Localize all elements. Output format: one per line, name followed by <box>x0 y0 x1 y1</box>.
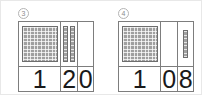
empty-ones-area <box>78 22 93 66</box>
hundred-flat-block <box>122 26 158 62</box>
place-value-table-3: 1 2 0 <box>18 21 94 92</box>
ones-digit-cell-3[interactable]: 0 <box>78 67 93 92</box>
empty-tens-area <box>161 22 177 66</box>
digits-row-3: 1 2 0 <box>19 67 93 92</box>
hundreds-blocks-cell-3 <box>19 22 61 66</box>
ten-rod-group <box>61 26 77 62</box>
tens-digit: 2 <box>62 67 75 92</box>
ten-rod-block <box>70 26 75 62</box>
tens-blocks-cell-3 <box>61 22 78 66</box>
ones-digit: 0 <box>79 67 92 92</box>
panel-number-badge-3: 3 <box>18 8 29 19</box>
tens-blocks-cell-4 <box>161 22 178 66</box>
digits-row-4: 1 0 8 <box>119 67 193 92</box>
hundred-flat-block <box>22 26 58 62</box>
ones-blocks-cell-4 <box>178 22 193 66</box>
hundreds-digit: 1 <box>33 67 46 92</box>
tens-digit-cell-4[interactable]: 0 <box>161 67 178 92</box>
tens-digit-cell-3[interactable]: 2 <box>61 67 78 92</box>
place-value-panel-3: 3 1 <box>5 8 99 93</box>
unit-cube-stack <box>183 30 188 59</box>
place-value-table-4: 1 0 8 <box>118 21 194 92</box>
ten-rod-block <box>63 26 68 62</box>
hundreds-blocks-cell-4 <box>119 22 161 66</box>
blocks-row-4 <box>119 22 193 67</box>
ones-digit: 8 <box>179 67 192 92</box>
tens-digit: 0 <box>162 67 175 92</box>
worksheet-page: 3 1 <box>0 0 202 95</box>
hundreds-digit-cell-3[interactable]: 1 <box>19 67 61 92</box>
panel-number-badge-4: 4 <box>118 8 129 19</box>
blocks-row-3 <box>19 22 93 67</box>
hundreds-digit: 1 <box>133 67 146 92</box>
ones-blocks-cell-3 <box>78 22 93 66</box>
ones-digit-cell-4[interactable]: 8 <box>178 67 193 92</box>
place-value-panel-4: 4 1 0 <box>105 8 199 93</box>
hundreds-digit-cell-4[interactable]: 1 <box>119 67 161 92</box>
